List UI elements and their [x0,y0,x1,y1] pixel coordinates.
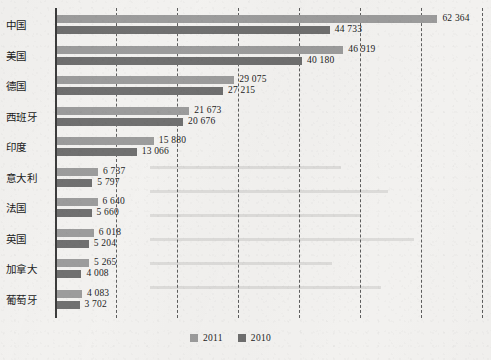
bar-2011 [57,259,89,267]
bar-group: 29 07527 215 [57,76,483,97]
legend-item-2010: 2010 [238,333,271,343]
chart-legend: 20112010 [190,333,271,343]
bar-2011 [57,137,154,145]
category-label: 法国 [6,200,52,215]
legend-label: 2011 [203,333,223,343]
legend-swatch-icon [238,334,246,342]
bar-value-label: 15 880 [159,135,186,145]
bar-value-label: 44 733 [335,24,362,34]
bar-2010 [57,179,92,187]
category-label: 加拿大 [6,261,52,276]
bar-group: 4 0833 702 [57,290,483,311]
bar-value-label: 5 660 [97,207,119,217]
bar-value-label: 6 737 [103,166,125,176]
bar-2010 [57,270,81,278]
bar-2011 [57,76,234,84]
plot-area: 62 36444 73346 91940 18029 07527 21521 6… [55,8,481,318]
bar-2010 [57,87,223,95]
bar-value-label: 3 702 [85,299,107,309]
bar-2010 [57,118,183,126]
bar-2011 [57,168,98,176]
category-label: 印度 [6,139,52,154]
category-label: 葡萄牙 [6,292,52,307]
category-label: 德国 [6,78,52,93]
bar-group: 5 2654 008 [57,259,483,280]
bar-2011 [57,46,343,54]
bar-value-label: 27 215 [228,85,255,95]
bar-value-label: 5 204 [94,238,116,248]
legend-swatch-icon [190,334,198,342]
bar-value-label: 40 180 [307,55,334,65]
bar-group: 62 36444 733 [57,15,483,36]
bar-2011 [57,290,82,298]
bar-value-label: 6 018 [99,227,121,237]
bar-group: 21 67320 676 [57,107,483,128]
category-label: 西班牙 [6,109,52,124]
bar-2010 [57,301,80,309]
bar-value-label: 46 919 [348,44,375,54]
bar-2010 [57,148,137,156]
category-label: 中国 [6,17,52,32]
bar-group: 6 7375 797 [57,168,483,189]
bar-2010 [57,57,302,65]
bar-group: 46 91940 180 [57,46,483,67]
legend-item-2011: 2011 [190,333,223,343]
category-label: 美国 [6,48,52,63]
bar-value-label: 5 797 [97,177,119,187]
bar-2010 [57,209,92,217]
bar-value-label: 4 008 [86,268,108,278]
category-label: 英国 [6,231,52,246]
bar-2011 [57,15,437,23]
horizontal-bar-chart: 中国美国德国西班牙印度意大利法国英国加拿大葡萄牙 62 36444 73346 … [0,0,491,360]
bar-value-label: 62 364 [442,13,469,23]
bar-2010 [57,26,330,34]
bar-group: 6 6405 660 [57,198,483,219]
category-label: 意大利 [6,170,52,185]
bar-value-label: 29 075 [239,74,266,84]
bar-value-label: 21 673 [194,105,221,115]
bar-group: 15 88013 066 [57,137,483,158]
bar-group: 6 0185 204 [57,229,483,250]
bar-2011 [57,107,189,115]
bar-2011 [57,229,94,237]
bar-value-label: 6 640 [103,196,125,206]
bar-value-label: 4 083 [87,288,109,298]
bar-2011 [57,198,98,206]
bar-2010 [57,240,89,248]
legend-label: 2010 [251,333,271,343]
bar-value-label: 5 265 [94,257,116,267]
bar-value-label: 20 676 [188,116,215,126]
bar-value-label: 13 066 [142,146,169,156]
